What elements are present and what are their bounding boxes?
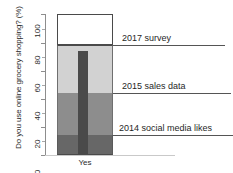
annotation-rule-2015-sales-data <box>113 93 231 94</box>
x-axis-category-label-yes: Yes <box>57 158 113 168</box>
bar-value-spike <box>78 51 88 155</box>
annotation-2017-survey: 2017 survey <box>122 33 171 44</box>
y-tick-minor-30 <box>42 113 45 114</box>
y-axis-label: Do you use online grocery shopping? (%) <box>14 0 23 158</box>
y-tick-minor-10 <box>42 141 45 142</box>
x-axis-baseline <box>45 155 175 156</box>
y-tick-minor-50 <box>42 85 45 86</box>
y-tick-minor-90 <box>42 29 45 30</box>
annotation-2015-sales-data: 2015 sales data <box>122 81 186 92</box>
bar-segment-2017-survey <box>57 14 113 45</box>
annotation-rule-2017-survey <box>113 45 225 46</box>
annotation-rule-2014-social-media-likes <box>113 135 233 136</box>
stacked-bar-chart: Do you use online grocery shopping? (%) … <box>0 0 233 173</box>
annotation-2014-social-media-likes: 2014 social media likes <box>119 123 212 134</box>
y-tick-label-0: 0 <box>34 156 42 173</box>
y-tick-minor-70 <box>42 57 45 58</box>
y-axis-line <box>45 14 46 156</box>
